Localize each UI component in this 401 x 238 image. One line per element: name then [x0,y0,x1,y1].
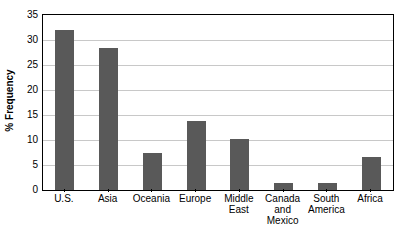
bar [55,30,74,190]
x-axis-tick-mark [283,189,284,192]
bar [230,139,249,190]
x-axis-tick-label: U.S. [42,193,86,204]
bars-layer [43,15,393,190]
x-axis-tick-mark [326,189,327,192]
x-axis-tick-label: MiddleEast [217,193,261,215]
bar [362,157,381,190]
x-axis-tick-label: Asia [86,193,130,204]
bar [143,153,162,191]
x-axis-tick-mark [239,189,240,192]
x-axis-tick-label-line: Africa [348,193,392,204]
x-axis-tick-mark [108,189,109,192]
x-axis-tick-label: SouthAmerica [305,193,349,215]
y-axis-tick-label: 20 [18,84,38,95]
y-axis-tick-label: 10 [18,134,38,145]
x-axis-tick-label-line: Europe [173,193,217,204]
y-axis-title-text: % Frequency [4,69,15,131]
y-axis-tick-label: 15 [18,109,38,120]
x-axis-tick-label: Africa [348,193,392,204]
x-axis-tick-label-line: America [305,204,349,215]
y-axis-tick-labels: 05101520253035 [18,0,38,238]
x-axis-tick-label: CanadaandMexico [261,193,305,226]
y-axis-tick-label: 35 [18,9,38,20]
bar [99,48,118,190]
y-axis-title: % Frequency [0,0,18,200]
y-axis-tick-label: 5 [18,159,38,170]
x-axis-tick-label-line: Oceania [130,193,174,204]
plot-area [42,14,394,191]
y-axis-tick-label: 0 [18,184,38,195]
y-axis-tick-label: 25 [18,59,38,70]
x-axis-tick-label-line: and [261,204,305,215]
x-axis-tick-label-line: Asia [86,193,130,204]
bar-chart: % Frequency 05101520253035 U.S.AsiaOcean… [0,0,401,238]
y-axis-tick-label: 30 [18,34,38,45]
bar [187,121,206,190]
x-axis-tick-mark [151,189,152,192]
x-axis-tick-mark [195,189,196,192]
x-axis-tick-mark [64,189,65,192]
x-axis-tick-label: Europe [173,193,217,204]
x-axis-tick-label-line: Mexico [261,215,305,226]
x-axis-tick-labels: U.S.AsiaOceaniaEuropeMiddleEastCanadaand… [42,193,392,238]
x-axis-tick-label-line: Middle [217,193,261,204]
x-axis-tick-label-line: U.S. [42,193,86,204]
x-axis-tick-label-line: East [217,204,261,215]
x-axis-tick-mark [370,189,371,192]
x-axis-tick-label: Oceania [130,193,174,204]
x-axis-tick-label-line: South [305,193,349,204]
x-axis-tick-label-line: Canada [261,193,305,204]
